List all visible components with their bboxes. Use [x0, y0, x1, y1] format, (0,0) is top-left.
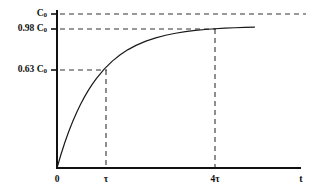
saturation-curve [57, 27, 255, 168]
xtick-label-origin: 0 [55, 175, 60, 185]
exponential-saturation-chart: C0 0.98 C0 0.63 C0 0 τ 4τ t [0, 0, 312, 191]
ytick-label-063c0: 0.63 C0 [18, 65, 47, 76]
xtick-label-tau: τ [104, 175, 108, 185]
x-axis-name: t [299, 174, 302, 184]
xtick-label-4tau: 4τ [210, 175, 219, 185]
ytick-label-098c0: 0.98 C0 [18, 24, 47, 35]
ytick-label-c0: C0 [37, 9, 47, 20]
